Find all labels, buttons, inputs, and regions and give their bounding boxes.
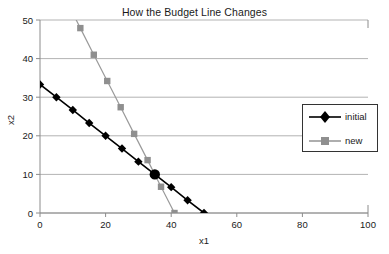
legend-item-new[interactable]: new [303, 129, 379, 153]
svg-text:40: 40 [22, 53, 33, 64]
y-axis-title: x2 [5, 115, 16, 125]
svg-text:60: 60 [232, 219, 243, 230]
x-axis-title: x1 [199, 235, 209, 246]
svg-text:20: 20 [22, 130, 33, 141]
annotation-layer [150, 169, 160, 179]
svg-text:0: 0 [28, 208, 33, 219]
svg-text:80: 80 [297, 219, 308, 230]
svg-text:40: 40 [166, 219, 177, 230]
legend-marker-square-icon [308, 129, 342, 153]
svg-text:20: 20 [100, 219, 111, 230]
data-series-layer [36, 0, 208, 217]
chart-legend[interactable]: initial new [302, 104, 378, 152]
svg-text:50: 50 [22, 15, 33, 26]
chart-container: How the Budget Line Changes 020406080100… [0, 0, 389, 254]
legend-label-initial: initial [345, 111, 367, 123]
legend-label-new: new [345, 135, 362, 147]
svg-text:0: 0 [37, 219, 42, 230]
svg-text:100: 100 [360, 219, 376, 230]
x-axis-tick-labels: 020406080100 [37, 213, 376, 230]
svg-text:10: 10 [22, 169, 33, 180]
legend-marker-diamond-icon [308, 105, 342, 129]
svg-text:30: 30 [22, 92, 33, 103]
legend-item-initial[interactable]: initial [303, 105, 379, 129]
y-axis-tick-labels: 01020304050 [22, 15, 40, 219]
